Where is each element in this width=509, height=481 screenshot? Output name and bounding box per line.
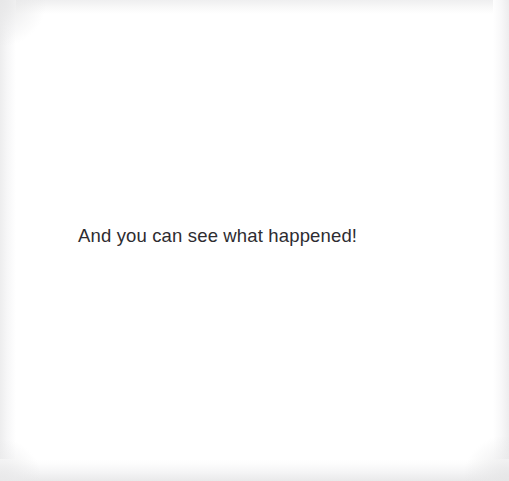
scanned-page: And you can see what happened! — [0, 0, 509, 481]
page-body-text: And you can see what happened! — [78, 224, 357, 248]
scan-corner-top-left — [0, 0, 46, 46]
scan-edge-top — [0, 0, 509, 14]
scan-edge-left — [0, 0, 16, 481]
scan-edge-bottom — [0, 459, 509, 481]
scan-corner-bottom-left — [0, 441, 40, 481]
scan-edge-right — [493, 0, 509, 481]
scan-corner-bottom-right — [465, 437, 509, 481]
